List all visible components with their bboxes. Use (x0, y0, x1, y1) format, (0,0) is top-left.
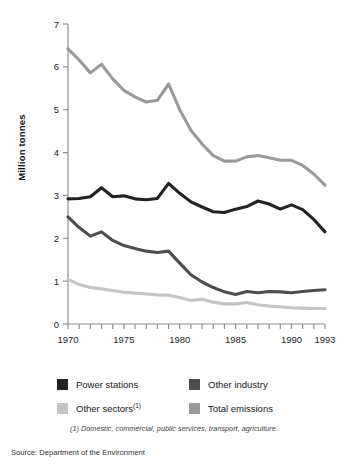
x-axis-tick-label: 1993 (314, 334, 335, 345)
y-axis-tick-label: 1 (54, 276, 59, 287)
x-axis-tick-label: 1985 (225, 334, 246, 345)
x-axis-tick-label: 1970 (57, 334, 78, 345)
legend-label-other-sectors: Other sectors(1) (76, 403, 141, 414)
legend-item-other-industry[interactable]: Other industry (189, 379, 268, 390)
legend-swatch-total-emissions (189, 403, 200, 414)
legend-item-total-emissions[interactable]: Total emissions (189, 403, 273, 414)
series-line-other-sectors (68, 279, 325, 308)
legend-item-other-sectors[interactable]: Other sectors(1) (57, 403, 189, 414)
legend-footnote-marker: (1) (133, 401, 141, 408)
legend-swatch-power-stations (57, 379, 68, 390)
y-axis-tick-label: 5 (54, 104, 59, 115)
y-axis-title: Million tonnes (16, 93, 27, 203)
y-axis-tick-label: 3 (54, 190, 59, 201)
x-axis-tick-label: 1980 (169, 334, 190, 345)
chart-plot-area: 01234567197019751980198519901993 Million… (0, 0, 348, 352)
chart-footnote: (1) Domestic, commercial, public service… (0, 424, 348, 433)
legend-label-total-emissions: Total emissions (208, 403, 273, 414)
x-axis-tick-label: 1990 (281, 334, 302, 345)
x-axis-tick-label: 1975 (113, 334, 134, 345)
chart-legend: Power stations Other industry Other sect… (0, 372, 348, 420)
y-axis-tick-label: 7 (54, 19, 59, 30)
line-chart-svg: 01234567197019751980198519901993 (0, 0, 348, 352)
legend-swatch-other-industry (189, 379, 200, 390)
y-axis-tick-label: 2 (54, 233, 59, 244)
legend-label-power-stations: Power stations (76, 379, 138, 390)
y-axis-tick-label: 4 (54, 147, 59, 158)
legend-label-other-sectors-text: Other sectors (76, 403, 133, 414)
legend-item-power-stations[interactable]: Power stations (57, 379, 189, 390)
series-line-total-emissions (68, 49, 325, 185)
y-axis-tick-label: 6 (54, 61, 59, 72)
legend-swatch-other-sectors (57, 403, 68, 414)
series-line-power-stations (68, 183, 325, 231)
legend-label-other-industry: Other industry (208, 379, 268, 390)
legend-row-1: Power stations Other industry (0, 372, 348, 396)
legend-row-2: Other sectors(1) Total emissions (0, 396, 348, 420)
series-line-other-industry (68, 217, 325, 295)
chart-source: Source: Department of the Environment (11, 448, 145, 457)
y-axis-tick-label: 0 (54, 319, 59, 330)
figure-container: 01234567197019751980198519901993 Million… (0, 0, 348, 471)
